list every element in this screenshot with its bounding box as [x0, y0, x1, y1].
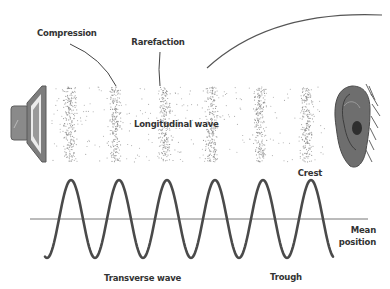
- speaker-icon: [11, 86, 46, 162]
- compression-pointer: [70, 44, 116, 86]
- ear-icon: [335, 84, 380, 167]
- mean-label-line1: Mean: [339, 224, 376, 236]
- longitudinal-wave-label: Longitudinal wave: [134, 119, 219, 129]
- travel-arc: [207, 15, 382, 68]
- wave-diagram: [0, 0, 390, 289]
- transverse-wave-label: Transverse wave: [104, 273, 181, 283]
- rarefaction-label: Rarefaction: [131, 37, 184, 47]
- mean-label-line2: position: [339, 236, 376, 248]
- rarefaction-pointer: [159, 52, 160, 86]
- trough-label: Trough: [270, 272, 302, 282]
- mean-position-label: Mean position: [339, 224, 376, 248]
- compression-label: Compression: [37, 28, 97, 38]
- crest-label: Crest: [298, 168, 322, 178]
